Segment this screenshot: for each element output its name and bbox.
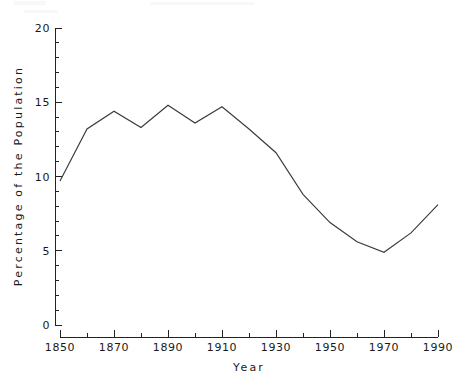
x-axis-tick-label: 1930 [261,341,291,354]
x-axis-tick-label: 1970 [369,341,399,354]
x-axis-tick-label: 1850 [45,341,75,354]
x-axis-tick-label: 1950 [315,341,345,354]
y-axis: 05101520 [35,22,62,332]
y-axis-tick-label: 15 [35,96,50,109]
scan-artifact [150,2,255,5]
x-axis-tick-label: 1870 [99,341,129,354]
chart-canvas: 05101520 1850187018901910193019501970199… [0,0,460,385]
x-axis-tick-label: 1890 [153,341,183,354]
x-axis-tick-label: 1910 [207,341,237,354]
y-axis-title: Percentage of the Population [12,66,25,286]
x-axis-tick-label: 1990 [423,341,453,354]
scan-artifact [24,10,58,13]
x-axis-tick-labels: 18501870189019101930195019701990 [45,341,453,354]
y-axis-tick-labels: 05101520 [35,22,50,332]
data-series-line [60,105,438,252]
scan-artifact [14,1,46,5]
y-axis-tick-label: 5 [42,245,50,258]
x-axis-title: Year [232,361,265,374]
y-axis-tick-label: 10 [35,171,50,184]
y-axis-tick-label: 20 [35,22,50,35]
x-axis: 18501870189019101930195019701990 [45,330,453,354]
x-axis-minor-ticks [87,333,411,337]
y-axis-tick-label: 0 [42,319,50,332]
line-chart: 05101520 1850187018901910193019501970199… [0,0,460,385]
